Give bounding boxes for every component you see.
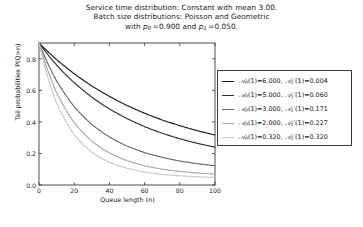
- series-line-3: [39, 43, 215, 174]
- x-tick-label: 40: [99, 187, 119, 194]
- x-tick-label: 100: [205, 187, 225, 194]
- legend-line-swatch: [222, 123, 234, 124]
- chart-legend: 𝒜0(1)=6.000, 𝒜1′(1)=0.004𝒜0(1)=5.000, 𝒜1…: [217, 70, 352, 146]
- x-axis-label: Queue length (n): [39, 196, 216, 204]
- x-tick-label: 80: [170, 187, 190, 194]
- legend-line-swatch: [222, 137, 234, 138]
- chart-figure: Service time distribution: Constant with…: [0, 0, 363, 227]
- x-tick-label: 0: [29, 187, 49, 194]
- legend-item-label: 𝒜0(1)=6.000, 𝒜1′(1)=0.004: [239, 77, 328, 85]
- legend-item-0[interactable]: 𝒜0(1)=6.000, 𝒜1′(1)=0.004: [218, 74, 351, 88]
- legend-item-2[interactable]: 𝒜0(1)=3.000, 𝒜1′(1)=0.171: [218, 102, 351, 116]
- plot-frame: [39, 43, 215, 185]
- x-tick-label: 60: [135, 187, 155, 194]
- legend-item-1[interactable]: 𝒜0(1)=5.000, 𝒜1′(1)=0.060: [218, 88, 351, 102]
- legend-item-label: 𝒜0(1)=5.000, 𝒜1′(1)=0.060: [239, 91, 328, 99]
- legend-line-swatch: [222, 95, 234, 96]
- x-tick-label: 20: [64, 187, 84, 194]
- legend-item-label: 𝒜0(1)=0.320, 𝒜1′(1)=0.320: [239, 133, 328, 141]
- series-line-4: [39, 43, 215, 177]
- legend-item-3[interactable]: 𝒜0(1)=2.000, 𝒜1′(1)=0.227: [218, 116, 351, 130]
- series-line-2: [39, 43, 215, 166]
- legend-item-label: 𝒜0(1)=2.000, 𝒜1′(1)=0.227: [239, 119, 328, 127]
- legend-line-swatch: [222, 109, 234, 110]
- legend-item-4[interactable]: 𝒜0(1)=0.320, 𝒜1′(1)=0.320: [218, 130, 351, 144]
- y-axis-label: Tail probabilities P(Q>n): [14, 17, 22, 147]
- y-tick-label: 0.2: [14, 150, 36, 157]
- legend-item-label: 𝒜0(1)=3.000, 𝒜1′(1)=0.171: [239, 105, 328, 113]
- legend-line-swatch: [222, 81, 234, 82]
